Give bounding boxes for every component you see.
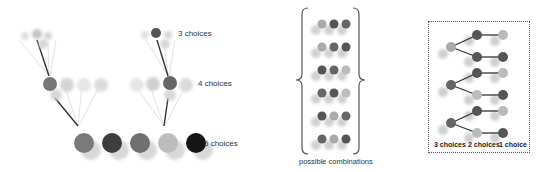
- level3-left-circles: [21, 29, 52, 40]
- box-label-3-choices: 3 choices: [434, 141, 466, 148]
- possible-combinations-caption: possible combinations: [299, 157, 373, 166]
- box-label-2-choices: 2 choices: [468, 141, 500, 148]
- level3-right-circles: [141, 28, 172, 39]
- level2-right-circles: [130, 76, 193, 92]
- label-5-choices: 5 choices: [204, 139, 238, 148]
- level2-left-circles: [43, 77, 108, 92]
- combination-rows: [311, 20, 351, 151]
- decision-box: [428, 21, 530, 153]
- label-3-choices: 3 choices: [178, 29, 212, 38]
- box-label-1-choice: 1 choice: [499, 141, 527, 148]
- label-4-choices: 4 choices: [198, 79, 232, 88]
